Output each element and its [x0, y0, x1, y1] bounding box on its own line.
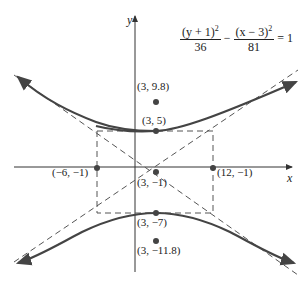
exponent-x: 2 — [268, 24, 272, 33]
denominator-x: 81 — [248, 40, 260, 54]
fraction-x: (x − 3)2 81 — [234, 22, 275, 54]
label-right: (12, −1) — [217, 166, 253, 179]
label-vertex-top: (3, 5) — [142, 114, 166, 127]
point-right — [210, 165, 216, 171]
point-left — [94, 165, 100, 171]
numerator-y: (y + 1) — [182, 25, 215, 39]
equation-rhs: = 1 — [277, 31, 293, 46]
point-vertex-top — [153, 128, 159, 134]
label-center: (3, −1) — [137, 176, 167, 189]
x-axis-label: x — [286, 171, 293, 185]
y-axis-label: y — [126, 13, 133, 27]
label-focus-top: (3, 9.8) — [137, 80, 169, 93]
hyperbola-equation: (y + 1)2 36 − (x − 3)2 81 = 1 — [180, 22, 293, 54]
point-center — [153, 169, 159, 175]
label-focus-bottom: (3, −11.8) — [137, 244, 181, 257]
point-focus-top — [153, 99, 159, 105]
numerator-x: (x − 3) — [236, 25, 269, 39]
upper-branch — [96, 82, 296, 131]
minus-operator: − — [224, 31, 231, 46]
label-vertex-bottom: (3, −7) — [137, 216, 167, 229]
label-left: (−6, −1) — [52, 166, 89, 179]
exponent-y: 2 — [215, 24, 219, 33]
fraction-y: (y + 1)2 36 — [180, 22, 221, 54]
denominator-y: 36 — [194, 40, 206, 54]
